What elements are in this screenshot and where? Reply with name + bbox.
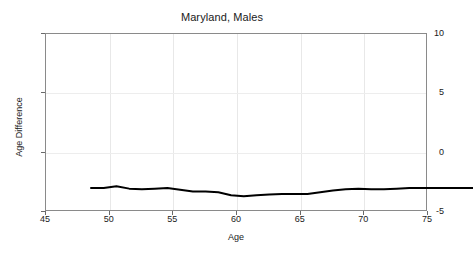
x-axis-tick-label: 65	[280, 214, 320, 224]
y-axis-title: Age Difference	[14, 62, 24, 192]
x-axis-title: Age	[45, 232, 427, 242]
x-axis-tick-label: 55	[152, 214, 192, 224]
x-axis-tick-label: 45	[25, 214, 65, 224]
x-axis-tick-mark	[109, 211, 110, 215]
chart-title: Maryland, Males	[0, 11, 444, 23]
y-axis-tick-mark	[41, 92, 45, 93]
y-axis-tick-label: 0	[410, 147, 444, 157]
x-axis-tick-label: 75	[407, 214, 447, 224]
x-axis-tick-mark	[363, 211, 364, 215]
x-axis-tick-mark	[172, 211, 173, 215]
y-axis-tick-label: 5	[410, 87, 444, 97]
plot-area	[45, 33, 427, 211]
x-axis-tick-label: 50	[89, 214, 129, 224]
x-axis-tick-mark	[300, 211, 301, 215]
y-axis-tick-mark	[41, 33, 45, 34]
x-axis-tick-label: 70	[343, 214, 383, 224]
x-axis-tick-label: 60	[216, 214, 256, 224]
x-axis-tick-mark	[236, 211, 237, 215]
y-axis-tick-label: 10	[410, 28, 444, 38]
x-axis-tick-mark	[45, 211, 46, 215]
x-axis-tick-mark	[427, 211, 428, 215]
y-axis-tick-mark	[41, 152, 45, 153]
